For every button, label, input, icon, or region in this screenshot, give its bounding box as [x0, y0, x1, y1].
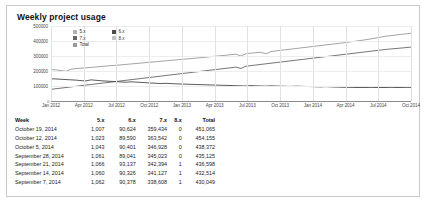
y-axis-tick-label: 300000 [33, 54, 48, 59]
week-cell: September 7, 2014 [15, 177, 80, 186]
value-6x-cell: 90,378 [105, 177, 136, 186]
legend-item-8x[interactable]: 8.x [112, 36, 151, 41]
value-7x-cell: 341,127 [136, 169, 167, 178]
table-row[interactable]: September 7, 20141,06290,378338,6081430,… [15, 177, 215, 186]
weekly-project-usage-panel: Weekly project usage 0 50000040000030000… [6, 5, 420, 197]
legend-item-label: 8.x [119, 36, 125, 41]
x-axis-tick-label: Oct 2014 [402, 103, 420, 108]
x-gridline [51, 26, 52, 101]
table-row[interactable]: October 5, 20141,04390,401346,9280438,37… [15, 142, 215, 151]
x-gridline [247, 26, 248, 101]
y-axis-tick-label: 400000 [33, 39, 48, 44]
legend-item-7x[interactable]: 7.x [73, 36, 112, 41]
value-5x-cell: 1,060 [80, 169, 105, 178]
value-7x-cell: 346,928 [136, 142, 167, 151]
column-header-8x: 8.x [167, 116, 182, 125]
total-cell: 451,065 [182, 125, 215, 134]
column-header-6x: 6.x [105, 116, 136, 125]
week-cell: September 28, 2014 [15, 151, 80, 160]
page-title: Weekly project usage [17, 12, 106, 22]
column-header-5x: 5.x [80, 116, 105, 125]
x-gridline [411, 26, 412, 101]
legend-item-label: 7.x [80, 36, 86, 41]
y-gridline [51, 71, 411, 72]
value-6x-cell: 89,590 [105, 134, 136, 143]
total-cell: 435,125 [182, 151, 215, 160]
table-row[interactable]: October 12, 20141,02389,590363,5420454,1… [15, 134, 215, 143]
total-cell: 436,598 [182, 160, 215, 169]
value-6x-cell: 89,041 [105, 151, 136, 160]
value-5x-cell: 1,043 [80, 142, 105, 151]
value-7x-cell: 342,394 [136, 160, 167, 169]
value-6x-cell: 90,326 [105, 169, 136, 178]
week-cell: October 19, 2014 [15, 125, 80, 134]
table-row[interactable]: September 21, 20141,06693,137342,3941436… [15, 160, 215, 169]
x-gridline [182, 26, 183, 101]
legend-item-label: Total [80, 42, 89, 47]
x-gridline [215, 26, 216, 101]
value-7x-cell: 363,542 [136, 134, 167, 143]
table-body: October 19, 20141,00790,624359,4340451,0… [15, 125, 215, 186]
legend-item-label: 6.x [119, 29, 125, 34]
series-line-7x [51, 47, 411, 89]
total-cell: 454,155 [182, 134, 215, 143]
value-5x-cell: 1,007 [80, 125, 105, 134]
value-8x-cell: 0 [167, 142, 182, 151]
week-cell: September 14, 2014 [15, 169, 80, 178]
value-8x-cell: 0 [167, 151, 182, 160]
value-8x-cell: 0 [167, 134, 182, 143]
table-row[interactable]: October 19, 20141,00790,624359,4340451,0… [15, 125, 215, 134]
x-gridline [346, 26, 347, 101]
x-axis-tick-label: Apr 2014 [337, 103, 355, 108]
legend-item-5x[interactable]: 5.x [73, 29, 112, 34]
y-gridline [51, 56, 411, 57]
table-row[interactable]: September 28, 20141,06189,041345,0230435… [15, 151, 215, 160]
x-axis-tick-label: Oct 2013 [271, 103, 289, 108]
value-8x-cell: 1 [167, 177, 182, 186]
table-header-row: Week 5.x 6.x 7.x 8.x Total [15, 116, 215, 125]
y-gridline [51, 86, 411, 87]
y-axis-tick-label: 500000 [33, 24, 48, 29]
column-header-total: Total [182, 116, 215, 125]
total-cell: 430,049 [182, 177, 215, 186]
table-row[interactable]: September 14, 20141,06090,326341,1271432… [15, 169, 215, 178]
total-cell: 432,514 [182, 169, 215, 178]
x-gridline [280, 26, 281, 101]
value-7x-cell: 345,023 [136, 151, 167, 160]
x-axis-tick-label: Jul 2014 [370, 103, 387, 108]
legend-item-total[interactable]: Total [73, 42, 112, 47]
column-header-7x: 7.x [136, 116, 167, 125]
value-8x-cell: 1 [167, 169, 182, 178]
value-7x-cell: 359,434 [136, 125, 167, 134]
value-6x-cell: 93,137 [105, 160, 136, 169]
value-5x-cell: 1,066 [80, 160, 105, 169]
y-gridline [51, 26, 411, 27]
legend-swatch-icon [112, 36, 116, 40]
x-axis-tick-label: Apr 2013 [206, 103, 224, 108]
usage-data-table: Week 5.x 6.x 7.x 8.x Total October 19, 2… [15, 116, 215, 186]
value-8x-cell: 1 [167, 160, 182, 169]
x-gridline [313, 26, 314, 101]
legend-swatch-icon [73, 43, 77, 47]
x-axis-tick-label: Jan 2013 [173, 103, 191, 108]
legend-swatch-icon [112, 30, 116, 34]
value-5x-cell: 1,062 [80, 177, 105, 186]
y-axis-tick-label: 200000 [33, 69, 48, 74]
x-axis-tick-label: Jan 2014 [304, 103, 322, 108]
y-axis-tick-label: 100000 [33, 84, 48, 89]
value-7x-cell: 338,608 [136, 177, 167, 186]
value-6x-cell: 90,401 [105, 142, 136, 151]
week-cell: October 12, 2014 [15, 134, 80, 143]
legend-swatch-icon [73, 36, 77, 40]
x-axis-tick-label: Apr 2012 [75, 103, 93, 108]
chart-legend: 5.x6.x7.x8.xTotal [73, 29, 151, 49]
value-8x-cell: 0 [167, 125, 182, 134]
value-6x-cell: 90,624 [105, 125, 136, 134]
value-5x-cell: 1,023 [80, 134, 105, 143]
x-axis-tick-label: Jul 2012 [108, 103, 125, 108]
week-cell: September 21, 2014 [15, 160, 80, 169]
total-cell: 438,372 [182, 142, 215, 151]
legend-item-6x[interactable]: 6.x [112, 29, 151, 34]
x-gridline [378, 26, 379, 101]
x-axis-tick-label: Oct 2012 [140, 103, 158, 108]
